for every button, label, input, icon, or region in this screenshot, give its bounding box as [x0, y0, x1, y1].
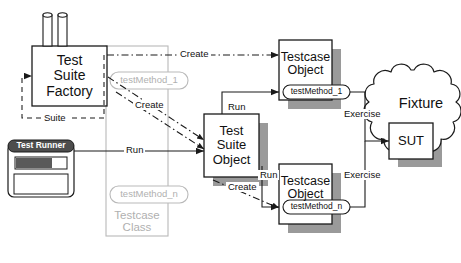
edge-label-run-last: Run: [258, 170, 279, 180]
tcon-method: testMethod_n: [291, 202, 343, 211]
tcc-method-first: testMethod_1: [120, 75, 178, 85]
sut-text: SUT: [398, 134, 424, 148]
testcase-class-label: Testcase Class: [106, 206, 168, 236]
tcc-method-last: testMethod_n: [120, 189, 178, 199]
tsf-line3: Factory: [46, 84, 93, 99]
tco1-line2: Object: [287, 64, 323, 78]
edge-label-create-top: Create: [178, 49, 211, 59]
testcase-object-first-method-label: testMethod_1: [283, 85, 350, 99]
test-runner-content-pane: [14, 174, 68, 194]
sut-label: SUT: [389, 123, 433, 159]
testcase-class-method-last-label: testMethod_n: [110, 186, 188, 203]
test-suite-factory-tubes: [43, 13, 67, 46]
edge-label-run-runner: Run: [124, 145, 145, 155]
test-runner-progress-fill: [16, 158, 52, 168]
test-suite-factory-label: Test Suite Factory: [32, 46, 107, 106]
tso-line3: Object: [213, 153, 251, 167]
tsf-line1: Test: [57, 53, 83, 68]
testcase-object-last-method-label: testMethod_n: [283, 200, 350, 214]
testcase-class-method-first-label: testMethod_1: [110, 72, 188, 89]
tco1-line1: Testcase: [281, 51, 330, 65]
edge-label-exercise-first: Exercise: [342, 109, 382, 119]
tco1-method: testMethod_1: [291, 87, 343, 96]
testcase-object-first-label: Testcase Object: [279, 44, 332, 84]
edge-label-suite: Suite: [42, 113, 68, 123]
fixture-label: Fixture: [393, 95, 449, 113]
edge-label-exercise-last: Exercise: [342, 170, 382, 180]
edge-label-create-mid: Create: [133, 100, 166, 110]
test-runner-title: Test Runner: [8, 140, 74, 152]
tcc-line2: Class: [123, 221, 152, 233]
tso-line1: Test: [220, 124, 244, 138]
tcc-line1: Testcase: [114, 209, 159, 221]
fixture-text: Fixture: [399, 96, 443, 112]
test-runner-title-text: Test Runner: [17, 141, 66, 150]
edge-label-run-first: Run: [226, 102, 247, 112]
tcon-line1: Testcase: [281, 175, 330, 189]
tsf-line2: Suite: [54, 68, 86, 83]
diagram-canvas: Test Suite Factory Test Suite Object Tes…: [0, 0, 461, 263]
tso-line2: Suite: [217, 138, 247, 152]
edge-label-create-bottom: Create: [226, 182, 259, 192]
test-suite-object-label: Test Suite Object: [204, 114, 259, 177]
